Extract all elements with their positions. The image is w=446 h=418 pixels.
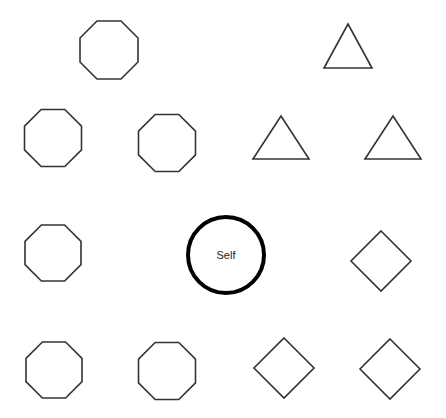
shapes-layer <box>25 21 422 400</box>
octagon-shape <box>139 343 196 400</box>
octagon-shape <box>25 110 82 167</box>
self-node: Self <box>188 217 264 293</box>
shape-diagram: Self <box>0 0 446 418</box>
triangle-shape <box>324 24 372 68</box>
triangle-shape <box>365 116 421 159</box>
octagon-shape <box>25 225 81 281</box>
diamond-shape <box>254 338 314 398</box>
diamond-shape <box>351 231 411 291</box>
octagon-shape <box>26 342 82 398</box>
octagon-shape <box>139 115 196 172</box>
triangle-shape <box>253 116 309 159</box>
octagon-shape <box>80 21 138 79</box>
self-label: Self <box>217 249 237 261</box>
diamond-shape <box>360 339 420 399</box>
